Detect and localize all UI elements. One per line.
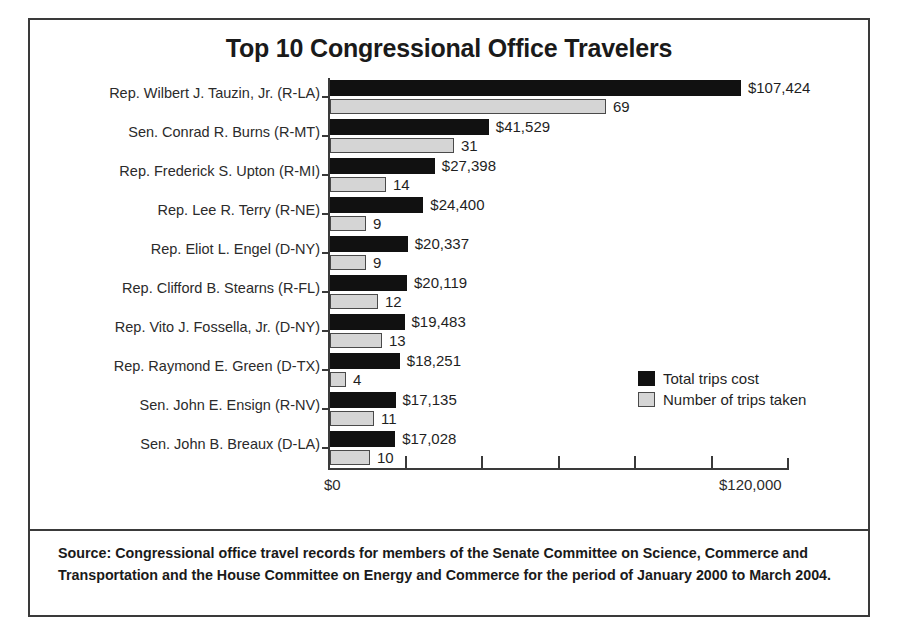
bar-total-trips-cost [330, 236, 408, 252]
bar-group: $20,3379 [330, 236, 860, 275]
bar-value-cost: $27,398 [442, 158, 496, 174]
bar-value-trips: 12 [385, 294, 402, 309]
bar-value-cost: $17,135 [403, 392, 457, 408]
bar-total-trips-cost [330, 392, 396, 408]
plot-area: Rep. Wilbert J. Tauzin, Jr. (R-LA)Sen. C… [42, 78, 860, 498]
legend-label: Number of trips taken [663, 391, 806, 408]
bar-value-trips: 9 [373, 255, 381, 270]
y-axis-tick [322, 174, 330, 176]
legend-swatch-cost-icon [638, 371, 655, 386]
y-axis-tick [322, 213, 330, 215]
y-axis-tick [322, 330, 330, 332]
bar-value-cost: $17,028 [402, 431, 456, 447]
bar-number-of-trips [330, 255, 366, 270]
bar-number-of-trips [330, 294, 378, 309]
bar-value-trips: 31 [461, 138, 478, 153]
category-label: Sen. John B. Breaux (D-LA) [40, 436, 320, 452]
y-axis-category-labels: Rep. Wilbert J. Tauzin, Jr. (R-LA)Sen. C… [42, 78, 328, 468]
y-axis-tick [322, 369, 330, 371]
bar-number-of-trips [330, 333, 382, 348]
y-axis-tick [322, 408, 330, 410]
bar-value-trips: 10 [377, 450, 394, 465]
x-axis-tick [787, 458, 789, 470]
x-axis-tick [711, 456, 713, 468]
x-axis-label-end: $120,000 [719, 476, 782, 493]
bar-group: $19,48313 [330, 314, 860, 353]
bar-total-trips-cost [330, 80, 741, 96]
bar-value-trips: 69 [613, 99, 630, 114]
bar-group: $27,39814 [330, 158, 860, 197]
category-label: Rep. Eliot L. Engel (D-NY) [40, 241, 320, 257]
bar-number-of-trips [330, 411, 374, 426]
x-axis-label-start: $0 [324, 476, 341, 493]
bar-total-trips-cost [330, 431, 395, 447]
bar-value-cost: $107,424 [748, 80, 811, 96]
legend-item: Total trips cost [638, 370, 848, 387]
bar-value-cost: $41,529 [496, 119, 550, 135]
bar-number-of-trips [330, 138, 454, 153]
bar-number-of-trips [330, 450, 370, 465]
bar-number-of-trips [330, 99, 606, 114]
y-axis-tick [322, 291, 330, 293]
y-axis-tick [322, 447, 330, 449]
bar-group: $24,4009 [330, 197, 860, 236]
bar-value-trips: 9 [373, 216, 381, 231]
bar-total-trips-cost [330, 353, 400, 369]
x-axis-tick [328, 458, 330, 470]
bar-value-cost: $18,251 [407, 353, 461, 369]
y-axis-tick [322, 135, 330, 137]
category-label: Rep. Clifford B. Stearns (R-FL) [40, 280, 320, 296]
bar-value-trips: 14 [393, 177, 410, 192]
x-axis-tick [634, 456, 636, 468]
bar-total-trips-cost [330, 158, 435, 174]
category-label: Rep. Raymond E. Green (D-TX) [40, 358, 320, 374]
source-note: Source: Congressional office travel reco… [58, 542, 840, 586]
y-axis-tick [322, 252, 330, 254]
x-axis-tick [481, 456, 483, 468]
bar-group: $107,42469 [330, 80, 860, 119]
bar-value-trips: 4 [353, 372, 361, 387]
legend-swatch-trips-icon [638, 392, 655, 407]
bar-value-trips: 13 [389, 333, 406, 348]
category-label: Rep. Vito J. Fossella, Jr. (D-NY) [40, 319, 320, 335]
chart-figure: Top 10 Congressional Office Travelers Re… [28, 18, 870, 617]
bar-total-trips-cost [330, 119, 489, 135]
bar-number-of-trips [330, 177, 386, 192]
category-label: Rep. Frederick S. Upton (R-MI) [40, 163, 320, 179]
legend-item: Number of trips taken [638, 391, 848, 408]
x-axis-tick [405, 456, 407, 468]
category-label: Sen. Conrad R. Burns (R-MT) [40, 124, 320, 140]
bar-total-trips-cost [330, 197, 423, 213]
category-label: Rep. Lee R. Terry (R-NE) [40, 202, 320, 218]
bar-value-cost: $20,337 [415, 236, 469, 252]
bar-number-of-trips [330, 216, 366, 231]
bar-group: $41,52931 [330, 119, 860, 158]
x-axis-tick [558, 456, 560, 468]
chart-legend: Total trips costNumber of trips taken [638, 370, 848, 412]
bar-number-of-trips [330, 372, 346, 387]
bar-group: $17,02810 [330, 431, 860, 470]
bar-group: $20,11912 [330, 275, 860, 314]
footer-divider [30, 529, 868, 531]
category-label: Rep. Wilbert J. Tauzin, Jr. (R-LA) [40, 85, 320, 101]
x-axis-line [328, 468, 789, 470]
bar-total-trips-cost [330, 275, 407, 291]
bar-total-trips-cost [330, 314, 405, 330]
category-label: Sen. John E. Ensign (R-NV) [40, 397, 320, 413]
legend-label: Total trips cost [663, 370, 759, 387]
bar-value-cost: $19,483 [412, 314, 466, 330]
bar-value-cost: $20,119 [414, 275, 467, 291]
y-axis-tick [322, 96, 330, 98]
bar-value-trips: 11 [381, 411, 397, 426]
bar-value-cost: $24,400 [430, 197, 484, 213]
page-title: Top 10 Congressional Office Travelers [30, 34, 868, 63]
